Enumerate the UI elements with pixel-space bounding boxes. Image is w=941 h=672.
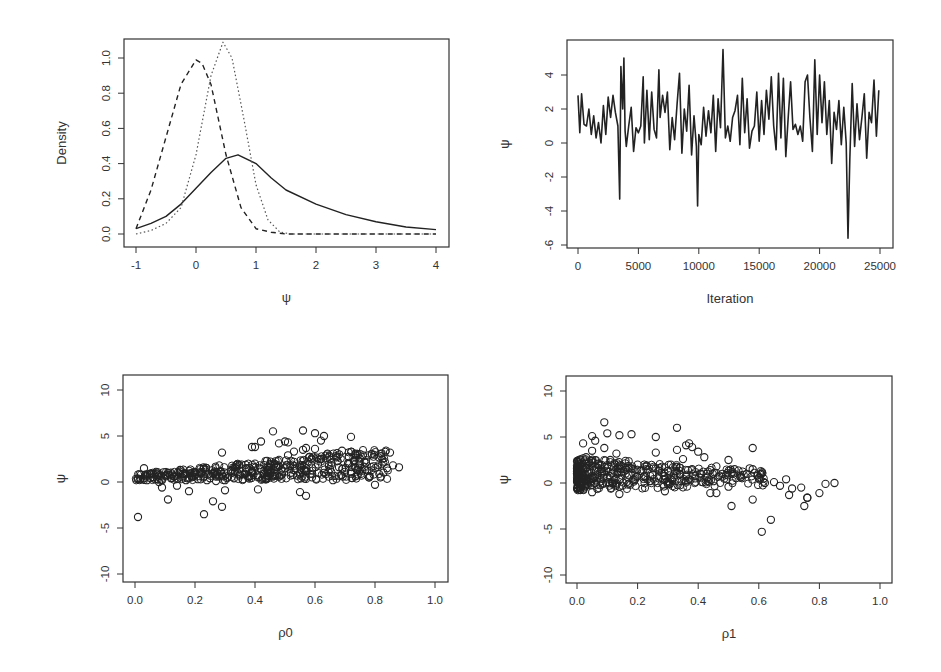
data-point [776, 482, 783, 489]
x-axis-title: Iteration [707, 291, 754, 306]
trace-panel: 0500010000150002000025000-6-4-2024Iterat… [497, 40, 896, 306]
x-tick-label: 10000 [683, 260, 715, 272]
data-point [347, 433, 354, 440]
y-tick-label: 5 [542, 434, 554, 440]
data-point [701, 454, 708, 461]
data-point [601, 444, 608, 451]
data-point [311, 430, 318, 437]
y-tick-label: -4 [543, 205, 555, 216]
data-point [158, 484, 165, 491]
data-point [831, 479, 838, 486]
plot-frame [124, 39, 449, 247]
trace-line [578, 50, 879, 239]
y-axis-title: ψ [496, 475, 511, 484]
x-tick-label: 0.8 [367, 594, 383, 606]
data-point [786, 491, 793, 498]
data-point [589, 447, 596, 454]
data-point [767, 516, 774, 523]
y-tick-label: -10 [542, 567, 554, 584]
data-point [679, 456, 686, 463]
y-tick-label: 5 [99, 433, 111, 439]
data-point [185, 488, 192, 495]
y-tick-label: -10 [99, 566, 111, 583]
density-panel: -1012340.00.20.40.60.81.0ψDensity [54, 39, 449, 305]
data-point [269, 428, 276, 435]
y-tick-label: 0.8 [100, 85, 112, 101]
data-point [749, 444, 756, 451]
x-axis-title: ρ0 [278, 625, 293, 640]
data-point [200, 511, 207, 518]
y-tick-label: 0.6 [100, 120, 112, 136]
x-tick-label: 0.4 [690, 595, 707, 607]
plot-area [132, 427, 402, 521]
x-tick-label: 0.2 [630, 595, 646, 607]
y-tick-label: 10 [99, 384, 111, 397]
data-point [749, 496, 756, 503]
y-tick-label: -5 [542, 524, 554, 534]
x-tick-label: 0.4 [247, 594, 264, 606]
data-point [290, 448, 297, 455]
dashed-density-curve [136, 60, 436, 234]
data-point [164, 496, 171, 503]
x-tick-label: 0.0 [127, 594, 143, 606]
y-tick-label: 0 [542, 480, 554, 486]
y-tick-label: 0.2 [100, 191, 112, 207]
data-point [816, 490, 823, 497]
y-tick-label: 4 [543, 71, 555, 78]
data-point [221, 487, 228, 494]
data-point [798, 484, 805, 491]
y-axis-title: ψ [497, 139, 512, 148]
scatter-rho1-panel: 0.00.20.40.60.81.0-10-50510ρ1ψ [496, 376, 892, 641]
x-tick-label: 0 [193, 259, 199, 271]
x-tick-label: 20000 [804, 260, 836, 272]
data-point [134, 513, 141, 520]
data-point [652, 433, 659, 440]
x-tick-label: 15000 [743, 260, 775, 272]
data-point [209, 498, 216, 505]
data-point [613, 450, 620, 457]
y-tick-label: -5 [99, 523, 111, 533]
x-tick-label: 0.6 [751, 595, 767, 607]
x-tick-label: 0.0 [569, 595, 585, 607]
data-point [601, 419, 608, 426]
x-tick-label: 1.0 [427, 594, 443, 606]
y-tick-label: 10 [542, 385, 554, 398]
x-tick-label: 0.2 [187, 594, 203, 606]
x-tick-label: 4 [433, 259, 440, 271]
y-tick-label: 0 [99, 479, 111, 485]
data-point [302, 492, 309, 499]
x-tick-label: 0.8 [811, 595, 827, 607]
data-point [299, 427, 306, 434]
data-point [783, 476, 790, 483]
data-point [616, 490, 623, 497]
data-point [604, 430, 611, 437]
data-point [257, 438, 264, 445]
y-axis-title: ψ [53, 474, 68, 483]
data-point [254, 486, 261, 493]
data-point [801, 502, 808, 509]
y-tick-label: 2 [543, 106, 555, 112]
data-point [616, 432, 623, 439]
data-point [218, 449, 225, 456]
x-tick-label: 25000 [864, 260, 896, 272]
plot-area [573, 419, 838, 536]
data-point [311, 445, 318, 452]
x-tick-label: 0.6 [307, 594, 323, 606]
y-tick-label: 0.4 [100, 155, 112, 172]
x-axis-title: ρ1 [722, 626, 737, 641]
x-tick-label: 1 [253, 259, 259, 271]
data-point [673, 424, 680, 431]
x-tick-label: 1.0 [872, 595, 888, 607]
data-point [728, 502, 735, 509]
y-axis-title: Density [54, 121, 69, 165]
x-tick-label: 3 [373, 259, 379, 271]
y-tick-label: -6 [543, 240, 555, 250]
data-point [673, 446, 680, 453]
y-tick-label: 0 [543, 140, 555, 146]
scatter-rho0-panel: 0.00.20.40.60.81.0-10-50510ρ0ψ [53, 375, 448, 640]
data-point [804, 494, 811, 501]
y-tick-label: 0.0 [100, 226, 112, 242]
dotted-density-curve [136, 42, 436, 234]
solid-density-curve [136, 155, 436, 230]
plot-area [136, 42, 436, 234]
